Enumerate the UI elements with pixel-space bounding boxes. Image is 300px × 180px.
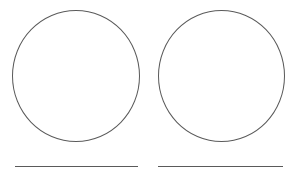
circle-outline-right[interactable] [158,10,285,142]
panel-left [0,0,150,180]
answer-rule-left[interactable] [15,166,138,167]
answer-rule-right[interactable] [158,166,283,167]
worksheet-page [0,0,300,180]
circle-outline-left[interactable] [12,10,140,142]
panel-right [150,0,300,180]
